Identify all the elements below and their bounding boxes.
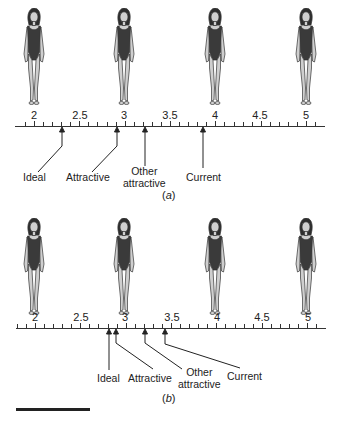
- scale-tick: [280, 324, 281, 328]
- scale-tick: [53, 324, 54, 328]
- scale-tick: [108, 324, 109, 328]
- scale-tick: [216, 323, 217, 328]
- scale-tick: [244, 324, 245, 328]
- scale-tick: [215, 121, 216, 126]
- scale-tick: [134, 122, 135, 126]
- marker-arrows: [0, 0, 342, 210]
- scale-tick: [153, 324, 154, 328]
- marker-label-ideal: Ideal: [97, 372, 120, 384]
- scale-tick: [135, 324, 136, 328]
- scale-tick: [271, 324, 272, 328]
- scale-tick: [171, 323, 172, 328]
- scale-tick: [43, 122, 44, 126]
- scale-tick: [225, 324, 226, 328]
- marker-label-current: Current: [186, 171, 221, 183]
- scale-tick: [297, 122, 298, 126]
- scale-tick: [306, 121, 307, 126]
- scale-tick: [180, 324, 181, 328]
- scale-tick: [34, 121, 35, 126]
- scale-tick: [144, 324, 145, 328]
- scale-tick: [253, 324, 254, 328]
- scale-tick: [89, 324, 90, 328]
- scale-tick: [261, 121, 262, 126]
- marker-label-attractive: Attractive: [128, 372, 172, 384]
- marker-label-other-attractive: Otherattractive: [178, 366, 221, 390]
- scale-tick: [206, 122, 207, 126]
- scale-tick: [189, 324, 190, 328]
- scale-tick: [170, 121, 171, 126]
- scale-tick: [315, 122, 316, 126]
- scale-tick: [188, 122, 189, 126]
- scale-tick: [198, 324, 199, 328]
- scale-tick: [243, 122, 244, 126]
- scale-tick: [88, 122, 89, 126]
- scale-tick: [207, 324, 208, 328]
- scale-tick: [107, 122, 108, 126]
- scale-tick: [224, 122, 225, 126]
- scale-tick: [35, 323, 36, 328]
- scale-tick: [98, 324, 99, 328]
- scale-tick: [17, 324, 18, 328]
- scale-tick: [234, 122, 235, 126]
- figure-panel-a: 2 2.5 3 3.5 4 4.5 5 Ideal Attractive Oth…: [0, 0, 342, 210]
- scale-tick: [61, 122, 62, 126]
- footer-rule: [16, 408, 90, 411]
- scale-tick: [126, 323, 127, 328]
- marker-label-attractive: Attractive: [66, 171, 110, 183]
- scale-tick: [80, 323, 81, 328]
- scale-tick: [197, 122, 198, 126]
- marker-arrows: [0, 210, 342, 421]
- scale-tick: [26, 324, 27, 328]
- scale-tick: [298, 324, 299, 328]
- scale-tick: [70, 122, 71, 126]
- scale-tick: [288, 122, 289, 126]
- scale-tick: [161, 122, 162, 126]
- scale-tick: [44, 324, 45, 328]
- marker-label-current: Current: [227, 370, 262, 382]
- marker-label-ideal: Ideal: [23, 171, 46, 183]
- scale-tick: [252, 122, 253, 126]
- scale-tick: [152, 122, 153, 126]
- panel-caption-a: (a): [162, 189, 175, 201]
- scale-tick: [62, 324, 63, 328]
- panel-caption-b: (b): [162, 392, 175, 404]
- scale-tick: [235, 324, 236, 328]
- scale-tick: [162, 324, 163, 328]
- scale-tick: [125, 121, 126, 126]
- scale-tick: [289, 324, 290, 328]
- scale-tick: [52, 122, 53, 126]
- scale-tick: [316, 324, 317, 328]
- figure-panel-b: 2 2.5 3 3.5 4 4.5 5 Ideal Attractive Oth…: [0, 210, 342, 421]
- marker-label-other-attractive: Otherattractive: [123, 165, 166, 189]
- scale-tick: [279, 122, 280, 126]
- scale-tick: [143, 122, 144, 126]
- scale-tick: [307, 323, 308, 328]
- scale-tick: [116, 122, 117, 126]
- scale-tick: [25, 122, 26, 126]
- scale-tick: [117, 324, 118, 328]
- scale-tick: [79, 121, 80, 126]
- scale-tick: [97, 122, 98, 126]
- scale-tick: [262, 323, 263, 328]
- scale-tick: [270, 122, 271, 126]
- scale-tick: [179, 122, 180, 126]
- scale-tick: [71, 324, 72, 328]
